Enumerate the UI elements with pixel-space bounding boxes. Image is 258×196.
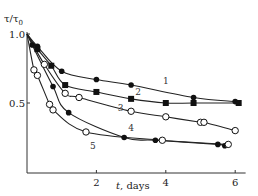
curve-label-1: 1 bbox=[163, 76, 169, 86]
square-marker bbox=[62, 82, 68, 88]
filled-circle-marker bbox=[215, 142, 221, 148]
open-circle-marker bbox=[163, 114, 169, 120]
square-marker bbox=[236, 100, 242, 106]
open-circle-marker bbox=[34, 72, 40, 78]
open-circle-marker bbox=[201, 119, 207, 125]
y-tick-label: 1.0 bbox=[9, 29, 25, 40]
open-circle-marker bbox=[50, 107, 56, 113]
x-tick-label: 2 bbox=[93, 177, 99, 188]
y-tick-label: 0.5 bbox=[9, 98, 25, 109]
filled-circle-marker bbox=[29, 42, 35, 48]
x-tick-label: 4 bbox=[163, 177, 169, 188]
filled-circle-marker bbox=[191, 95, 197, 101]
square-marker bbox=[48, 63, 54, 69]
open-circle-marker bbox=[83, 129, 89, 135]
filled-circle-marker bbox=[153, 137, 159, 143]
filled-circle-marker bbox=[128, 82, 134, 88]
open-circle-marker bbox=[232, 127, 238, 133]
chart: 2460.51.0t, daysτ/τ0 12345 bbox=[0, 0, 258, 196]
curve-label-3: 3 bbox=[118, 103, 124, 113]
curve-label-4: 4 bbox=[128, 123, 134, 133]
square-marker bbox=[163, 100, 169, 106]
open-circle-marker bbox=[41, 61, 47, 67]
filled-circle-marker bbox=[59, 68, 65, 74]
filled-circle-marker bbox=[50, 84, 56, 90]
square-marker bbox=[191, 100, 197, 106]
square-marker bbox=[34, 46, 40, 52]
y-axis-label: τ/τ0 bbox=[4, 13, 23, 27]
open-circle-marker bbox=[76, 94, 82, 100]
filled-circle-marker bbox=[94, 77, 100, 83]
x-tick-label: 6 bbox=[232, 177, 238, 188]
curve-label-2: 2 bbox=[135, 87, 141, 97]
open-circle-marker bbox=[62, 90, 68, 96]
curve-1 bbox=[27, 34, 235, 102]
curve-label-5: 5 bbox=[90, 141, 96, 151]
square-marker bbox=[128, 96, 134, 102]
square-marker bbox=[93, 89, 99, 95]
open-circle-marker bbox=[159, 137, 165, 143]
filled-circle-marker bbox=[121, 135, 127, 141]
filled-circle-marker bbox=[66, 110, 72, 116]
open-circle-marker bbox=[225, 141, 231, 147]
x-axis-label: t, days bbox=[116, 180, 150, 191]
open-circle-marker bbox=[128, 108, 134, 114]
axes: 2460.51.0t, daysτ/τ0 bbox=[4, 13, 246, 191]
curve-4 bbox=[27, 34, 225, 146]
